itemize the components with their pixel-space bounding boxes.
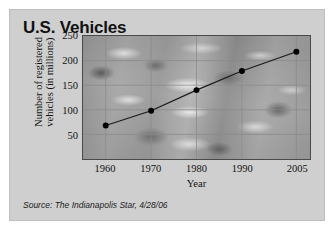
y-tick-250: 250 [52,30,78,41]
y-tick-150: 150 [52,80,78,91]
x-axis-tick-labels: 1960 1970 1980 1990 2005 [82,163,311,177]
y-tick-50: 50 [52,130,78,141]
y-tick-100: 100 [52,105,78,116]
data-point-1990 [239,68,245,74]
gridlines [83,36,310,159]
x-axis-label: Year [82,178,311,189]
y-axis-tick-labels: 250 200 150 100 50 [50,35,78,160]
data-point-1960 [103,123,109,129]
x-tick-1990: 1990 [232,163,253,174]
x-tick-1970: 1970 [140,163,161,174]
plot-area [82,35,311,160]
data-line [106,52,297,126]
data-point-1980 [194,87,200,93]
x-tick-1980: 1980 [186,163,207,174]
chart-figure-card: U.S. Vehicles Number of registered vehic… [9,9,325,221]
x-tick-1960: 1960 [94,163,115,174]
x-tick-2005: 2005 [287,163,308,174]
source-note: Source: The Indianapolis Star, 4/28/06 [23,200,168,210]
plot-graphics [83,36,310,159]
y-tick-200: 200 [52,55,78,66]
data-point-2005 [293,49,299,55]
data-point-1970 [148,108,154,114]
